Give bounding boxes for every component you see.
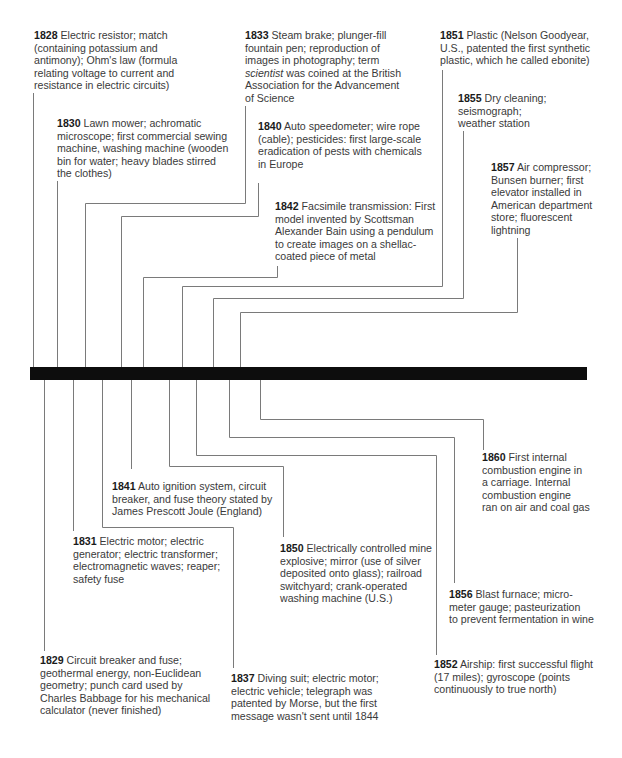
entry-text: Auto ignition system, circuit breaker, a… — [112, 480, 272, 517]
entry-1850: 1850 Electrically controlled mine explos… — [280, 542, 470, 605]
connector-1842 — [144, 266, 278, 367]
entry-year: 1856 — [449, 588, 473, 600]
entry-year: 1829 — [40, 654, 64, 666]
entry-1833: 1833 Steam brake; plunger-fill fountain … — [245, 29, 435, 105]
entry-text: Facsimile transmission: First model inve… — [275, 200, 435, 262]
entry-year: 1842 — [275, 200, 299, 212]
entry-1856: 1856 Blast furnace; micro- meter gauge; … — [449, 588, 622, 626]
entry-text: Airship: first successful flight (17 mil… — [434, 658, 593, 695]
entry-year: 1850 — [280, 542, 304, 554]
entry-text: Lawn mower; achromatic microscope; first… — [57, 117, 228, 179]
entry-1830: 1830 Lawn mower; achromatic microscope; … — [57, 117, 277, 180]
connector-1840 — [122, 183, 259, 367]
entry-1829: 1829 Circuit breaker and fuse; geotherma… — [40, 654, 250, 717]
entry-year: 1830 — [57, 117, 81, 129]
entry-year: 1857 — [491, 161, 515, 173]
entry-1842: 1842 Facsimile transmission: First model… — [275, 200, 465, 263]
entry-1851: 1851 Plastic (Nelson Goodyear, U.S., pat… — [440, 29, 622, 67]
entry-year: 1841 — [112, 480, 136, 492]
entry-year: 1855 — [458, 92, 482, 104]
entry-1855: 1855 Dry cleaning; seismograph; weather … — [458, 92, 578, 130]
entry-1840: 1840 Auto speedometer; wire rope (cable)… — [258, 120, 448, 170]
entry-1860: 1860 First internal combustion engine in… — [482, 451, 622, 514]
entry-year: 1851 — [440, 29, 464, 41]
entry-1841: 1841 Auto ignition system, circuit break… — [112, 480, 312, 518]
entry-year: 1840 — [258, 120, 282, 132]
entry-year: 1837 — [231, 672, 255, 684]
entry-text: Circuit breaker and fuse; geothermal ene… — [40, 654, 210, 716]
entry-1852: 1852 Airship: first successful flight (1… — [434, 658, 622, 696]
entry-1837: 1837 Diving suit; electric motor; electr… — [231, 672, 421, 722]
entry-1831: 1831 Electric motor; electric generator;… — [73, 535, 263, 585]
entry-year: 1828 — [34, 29, 58, 41]
connector-1860 — [261, 380, 484, 450]
entry-1828: 1828 Electric resistor; match (containin… — [34, 29, 234, 92]
entry-year: 1833 — [245, 29, 269, 41]
connector-1837 — [103, 380, 234, 668]
entry-year: 1860 — [482, 451, 506, 463]
entry-text: Auto speedometer; wire rope (cable); pes… — [258, 120, 422, 170]
entry-text-italic: scientist — [245, 67, 283, 79]
entry-year: 1852 — [434, 658, 458, 670]
entry-year: 1831 — [73, 535, 97, 547]
entry-1857: 1857 Air compressor; Bunsen burner; firs… — [491, 161, 622, 237]
